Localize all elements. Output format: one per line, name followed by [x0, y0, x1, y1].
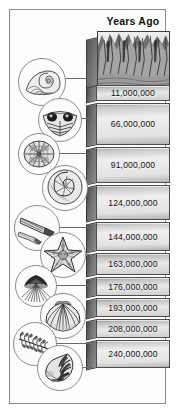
connector-line	[56, 153, 90, 154]
layer-front-face: 176,000,000	[96, 277, 170, 296]
strata-column: 11,000,000 66,000,000 91,000,000 124,000…	[86, 30, 170, 400]
layer-front-face: 144,000,000	[96, 222, 170, 251]
layer-age-label: 66,000,000	[111, 119, 156, 129]
coiled-ammonite-icon[interactable]	[42, 165, 88, 211]
layer-front-face: 66,000,000	[96, 103, 170, 145]
layer-front-face: 124,000,000	[96, 185, 170, 220]
layer-age-label: 11,000,000	[111, 88, 155, 98]
layer-front-face: 193,000,000	[96, 298, 170, 317]
layer-age-label: 144,000,000	[108, 232, 157, 242]
layer-age-label: 91,000,000	[111, 160, 156, 170]
figure-title: Years Ago	[97, 14, 169, 29]
strata-layer[interactable]: 144,000,000	[86, 222, 170, 251]
layer-front-face: 11,000,000	[96, 85, 170, 101]
geologic-strata-figure: Years Ago	[0, 0, 179, 417]
gastropod-spiral-icon[interactable]	[37, 345, 83, 391]
layer-age-label: 163,000,000	[108, 259, 157, 269]
connector-line	[53, 285, 91, 286]
strata-layer[interactable]: 193,000,000	[86, 298, 170, 317]
strata-layer[interactable]: 163,000,000	[86, 253, 170, 275]
connector-line	[62, 78, 90, 79]
strata-layer[interactable]: 208,000,000	[86, 319, 170, 338]
layer-age-label: 240,000,000	[108, 349, 157, 359]
layer-front-face: 163,000,000	[96, 253, 170, 275]
connector-line	[56, 227, 90, 228]
connector-line	[53, 343, 91, 344]
strata-layer[interactable]: 176,000,000	[86, 277, 170, 296]
strata-layer[interactable]: 66,000,000	[86, 103, 170, 145]
layer-front-face: 91,000,000	[96, 147, 170, 183]
layer-age-label: 176,000,000	[108, 282, 157, 292]
layer-age-label: 208,000,000	[108, 324, 157, 334]
layer-age-label: 124,000,000	[108, 198, 157, 208]
layer-age-label: 193,000,000	[108, 303, 157, 313]
strata-layer[interactable]: 240,000,000	[86, 340, 170, 368]
strata-layer[interactable]: 91,000,000	[86, 147, 170, 183]
strata-layer[interactable]: 11,000,000	[86, 85, 170, 101]
layer-front-face: 208,000,000	[96, 319, 170, 338]
strata-layer[interactable]: 124,000,000	[86, 185, 170, 220]
layer-front-face: 240,000,000	[96, 340, 170, 368]
